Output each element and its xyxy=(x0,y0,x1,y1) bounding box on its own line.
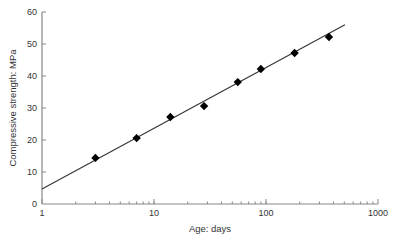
y-tick-label: 10 xyxy=(27,167,37,177)
diamond-marker xyxy=(166,113,174,121)
fit-line xyxy=(42,25,345,189)
diamond-marker xyxy=(325,33,333,41)
regression-line xyxy=(42,25,345,189)
y-tick-label: 30 xyxy=(27,103,37,113)
x-axis-label: Age: days xyxy=(189,223,231,234)
y-tick-label: 20 xyxy=(27,135,37,145)
y-tick-label: 50 xyxy=(27,39,37,49)
x-tick-label: 100 xyxy=(258,208,273,218)
ticks xyxy=(42,12,378,204)
x-tick-label: 1000 xyxy=(368,208,388,218)
x-tick-label: 1 xyxy=(39,208,44,218)
y-tick-label: 40 xyxy=(27,71,37,81)
diamond-marker xyxy=(132,134,140,142)
tick-labels: 01020304050601101001000 xyxy=(27,7,388,218)
y-axis-label: Compressive strength: MPa xyxy=(7,49,18,167)
y-tick-label: 0 xyxy=(32,199,37,209)
chart: 01020304050601101001000 Age: days Compre… xyxy=(0,0,396,240)
axes xyxy=(42,12,378,204)
diamond-marker xyxy=(91,154,99,162)
y-tick-label: 60 xyxy=(27,7,37,17)
x-tick-label: 10 xyxy=(149,208,159,218)
